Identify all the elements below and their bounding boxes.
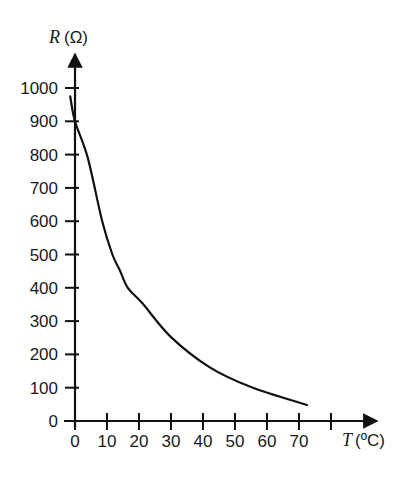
y-tick-label: 800 <box>30 146 58 165</box>
x-axis-label: T(ºC) <box>342 430 385 450</box>
x-tick-label: 50 <box>226 432 245 451</box>
x-tick-label: 0 <box>70 432 79 451</box>
y-axis-variable: R <box>48 27 60 47</box>
x-tick-label: 20 <box>130 432 149 451</box>
y-tick-label: 700 <box>30 179 58 198</box>
x-ticks: 010203040506070 <box>70 413 331 451</box>
y-tick-label: 1000 <box>20 79 58 98</box>
resistance-temperature-chart: 01002003004005006007008009001000 0102030… <box>0 0 412 477</box>
y-tick-label: 200 <box>30 345 58 364</box>
x-tick-label: 10 <box>98 432 117 451</box>
x-axis-unit: (ºC) <box>355 431 385 450</box>
resistance-curve <box>70 96 307 405</box>
x-axis-variable: T <box>342 430 354 450</box>
y-tick-label: 100 <box>30 379 58 398</box>
y-tick-label: 0 <box>49 412 58 431</box>
y-tick-label: 900 <box>30 112 58 131</box>
y-tick-label: 600 <box>30 212 58 231</box>
y-ticks: 01002003004005006007008009001000 <box>20 79 79 431</box>
y-tick-label: 500 <box>30 246 58 265</box>
y-axis-label: R(Ω) <box>48 27 88 47</box>
y-tick-label: 300 <box>30 312 58 331</box>
x-tick-label: 40 <box>194 432 213 451</box>
x-tick-label: 70 <box>290 432 309 451</box>
y-axis-unit: (Ω) <box>64 28 88 47</box>
y-tick-label: 400 <box>30 279 58 298</box>
x-tick-label: 60 <box>258 432 277 451</box>
x-tick-label: 30 <box>162 432 181 451</box>
